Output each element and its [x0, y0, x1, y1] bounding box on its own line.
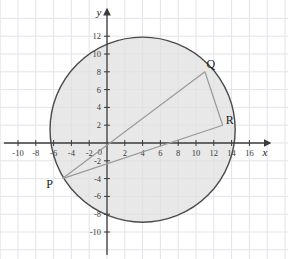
x-axis-tick-label: 6 [158, 148, 162, 158]
y-axis-label: y [96, 6, 102, 18]
x-axis-tick-label: -10 [12, 148, 23, 158]
x-axis-tick-label: 8 [176, 148, 180, 158]
y-axis-tick-label: -4 [94, 174, 102, 184]
y-axis-tick-label: -10 [90, 227, 101, 237]
x-axis-tick-label: 16 [245, 148, 254, 158]
x-axis-tick-label: 14 [227, 148, 236, 158]
y-axis-tick-label: -6 [94, 191, 101, 201]
x-axis-label: x [262, 146, 268, 158]
point-label-r: R [226, 113, 234, 127]
y-axis-tick-label: -8 [94, 209, 101, 219]
x-axis-tick-label: -4 [68, 148, 76, 158]
point-label-q: Q [207, 57, 216, 71]
y-axis-tick-label: 10 [93, 49, 102, 59]
y-axis-tick-label: -2 [94, 156, 101, 166]
y-axis-tick-label: 6 [97, 85, 101, 95]
graph-svg: -10-8-6-4-224681012141612108642-2-4-6-8-… [0, 0, 288, 259]
y-axis-tick-label: 12 [93, 31, 102, 41]
x-axis-tick-label: 2 [123, 148, 127, 158]
x-axis-tick-label: 12 [210, 148, 219, 158]
x-axis-tick-label: -6 [50, 148, 57, 158]
x-axis-tick-label: 4 [140, 148, 145, 158]
x-axis-tick-label: -8 [32, 148, 39, 158]
coordinate-graph-figure: -10-8-6-4-224681012141612108642-2-4-6-8-… [0, 0, 288, 259]
y-axis-tick-label: 2 [97, 120, 101, 130]
point-label-p: P [46, 177, 53, 191]
y-axis-tick-label: 8 [97, 67, 101, 77]
x-axis-tick-label: 10 [192, 148, 201, 158]
